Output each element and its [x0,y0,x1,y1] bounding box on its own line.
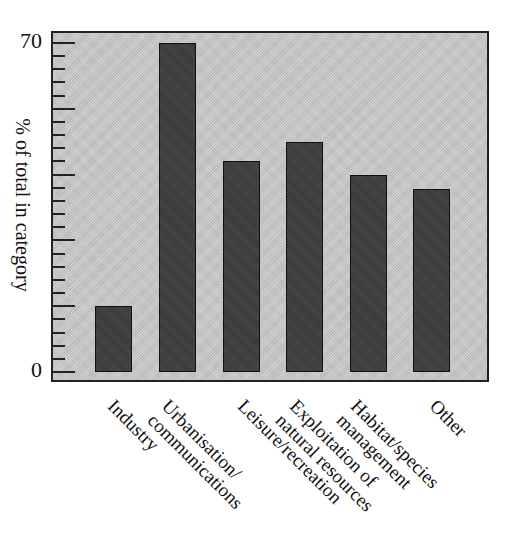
y-major-tick [53,42,75,44]
y-minor-tick [53,213,65,215]
bar-4 [350,175,387,372]
y-minor-tick [53,358,65,360]
y-minor-tick [53,134,65,136]
y-major-tick [53,371,75,373]
y-minor-tick [53,200,65,202]
y-minor-tick [53,95,65,97]
y-major-tick [53,305,75,307]
y-minor-tick [53,226,65,228]
bar-2 [223,161,260,373]
y-minor-tick [53,345,65,347]
y-minor-tick [53,121,65,123]
y-minor-tick [53,266,65,268]
bar-0 [95,306,132,372]
y-major-tick [53,108,75,110]
chart-title-fragment [0,0,509,12]
y-minor-tick [53,147,65,149]
y-tick-label-max: 70 [2,28,42,54]
y-minor-tick [53,332,65,334]
bar-3 [286,142,323,372]
y-minor-tick [53,68,65,70]
y-minor-tick [53,318,65,320]
bar-1 [159,43,196,372]
plot-area [51,31,489,382]
y-minor-tick [53,187,65,189]
y-axis-label: % of total in category [11,118,34,291]
y-minor-tick [53,160,65,162]
y-minor-tick [53,81,65,83]
y-minor-tick [53,55,65,57]
x-tick-label: Other [426,396,471,441]
y-minor-tick [53,279,65,281]
y-tick-label-zero: 0 [2,357,42,383]
y-minor-tick [53,292,65,294]
y-major-tick [53,239,75,241]
y-minor-tick [53,253,65,255]
bar-5 [413,189,450,372]
y-major-tick [53,174,75,176]
